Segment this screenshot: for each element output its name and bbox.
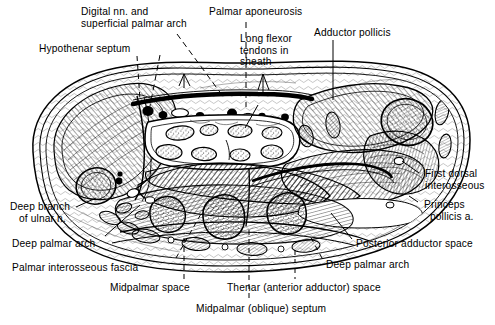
- label-thenar-anterior-adductor-space: Thenar (anterior adductor) space: [227, 282, 381, 294]
- label-palmar-interosseous-fascia: Palmar interosseous fascia: [12, 262, 138, 274]
- label-midpalmar-oblique-septum: Midpalmar (oblique) septum: [196, 303, 326, 315]
- label-deep-palmar-arch-right: Deep palmar arch: [326, 259, 409, 271]
- label-first-dorsal-interosseous: First dorsal interosseous: [425, 168, 485, 191]
- label-hypothenar-septum: Hypothenar septum: [39, 43, 130, 55]
- label-midpalmar-space: Midpalmar space: [110, 282, 190, 294]
- label-palmar-aponeurosis: Palmar aponeurosis: [209, 6, 302, 18]
- label-princeps-pollicis-artery: Princeps pollicis a.: [424, 199, 474, 222]
- label-adductor-pollicis: Adductor pollicis: [314, 27, 391, 39]
- label-long-flexor-tendons-in-sheath: Long flexor tendons in sheath: [240, 33, 292, 68]
- label-deep-branch-of-ulnar-nerve: Deep branch of ulnar n.: [10, 201, 70, 224]
- label-digital-nn-superficial-palmar-arch: Digital nn. and superficial palmar arch: [81, 6, 187, 29]
- hand-cross-section-figure: Digital nn. and superficial palmar arch …: [0, 0, 495, 325]
- label-posterior-adductor-space: Posterior adductor space: [356, 238, 473, 250]
- label-deep-palmar-arch-left: Deep palmar arch: [12, 238, 95, 250]
